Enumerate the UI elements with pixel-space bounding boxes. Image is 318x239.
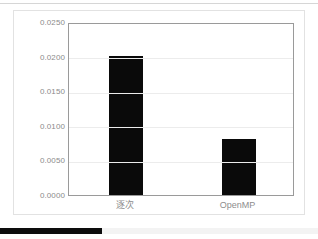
y-tick-label: 0.0000 <box>40 191 65 200</box>
bar[interactable] <box>109 56 143 195</box>
x-axis: 逐次OpenMP <box>68 199 294 215</box>
y-tick-label: 0.0250 <box>40 18 65 27</box>
plot-area <box>68 23 294 196</box>
bars-layer <box>69 24 293 195</box>
bar-chart: 0.00000.00500.01000.01500.02000.0250 逐次O… <box>14 11 306 216</box>
bottom-scroll-progress[interactable] <box>0 228 102 234</box>
gridline <box>69 127 293 128</box>
gridline <box>69 58 293 59</box>
x-tick-label: 逐次 <box>68 199 181 211</box>
x-tick-label: OpenMP <box>181 199 294 211</box>
slide-card: 0.00000.00500.01000.01500.02000.0250 逐次O… <box>13 10 305 215</box>
y-tick-label: 0.0200 <box>40 53 65 62</box>
gridline <box>69 93 293 94</box>
y-tick-label: 0.0150 <box>40 87 65 96</box>
y-tick-label: 0.0050 <box>40 156 65 165</box>
top-divider <box>0 3 318 4</box>
bar[interactable] <box>222 139 256 195</box>
y-tick-label: 0.0100 <box>40 122 65 131</box>
gridline <box>69 162 293 163</box>
y-axis: 0.00000.00500.01000.01500.02000.0250 <box>14 11 68 216</box>
